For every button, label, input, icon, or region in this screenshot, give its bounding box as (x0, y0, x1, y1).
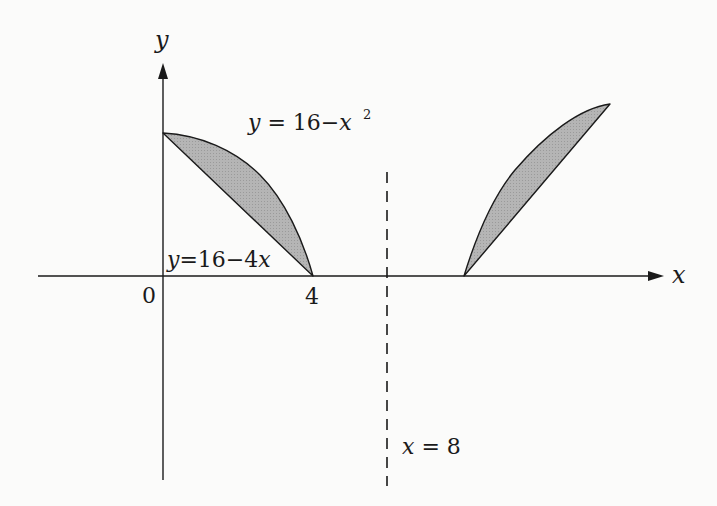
parabola-label: y = 16−x 2 (247, 107, 371, 135)
axis-of-rotation-label: x = 8 (402, 434, 461, 459)
diagram-canvas: y x 0 4 y = 16−x 2 y=16−4x x = 8 (0, 0, 717, 506)
origin-label: 0 (142, 283, 156, 308)
x-axis-label: x (672, 261, 686, 289)
x-axis-arrow-icon (648, 271, 664, 281)
y-axis-arrow-icon (158, 63, 168, 79)
svg-text:2: 2 (363, 107, 371, 122)
shaded-region-right (464, 104, 610, 276)
svg-text:y = 16−x: y = 16−x (247, 110, 352, 135)
x-axis (38, 271, 664, 281)
y-axis-label: y (154, 26, 169, 54)
tick-label-4: 4 (305, 284, 319, 309)
svg-text:x = 8: x = 8 (402, 434, 461, 459)
svg-text:y=16−4x: y=16−4x (166, 247, 271, 272)
line-label: y=16−4x (166, 247, 271, 272)
